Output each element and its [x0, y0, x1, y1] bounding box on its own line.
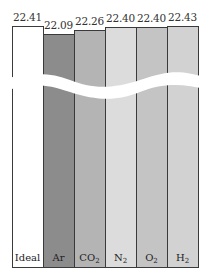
- molar-volume-bar-chart: 22.41Ideal22.09Ar22.26CO222.40N222.40O22…: [0, 0, 208, 279]
- axis-break-wave: [0, 0, 208, 279]
